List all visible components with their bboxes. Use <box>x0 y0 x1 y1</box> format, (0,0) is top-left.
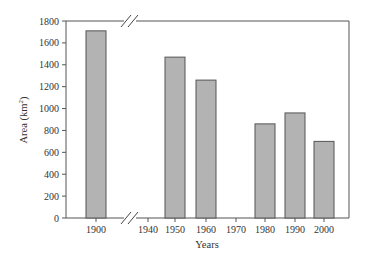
bar-2000 <box>314 141 334 218</box>
y-tick-label-0: 0 <box>54 213 59 224</box>
y-tick-label-1400: 1400 <box>39 59 59 70</box>
y-tick-label-200: 200 <box>44 191 59 202</box>
y-tick-label-600: 600 <box>44 147 59 158</box>
bar-1950 <box>165 57 185 218</box>
bar-1960 <box>196 80 216 218</box>
y-tick-label-400: 400 <box>44 169 59 180</box>
bar-chart: 020040060080010001200140016001800 190019… <box>0 0 366 261</box>
x-tick-label-1970: 1970 <box>226 224 246 235</box>
bar-1900 <box>86 31 106 218</box>
x-tick-label-1950: 1950 <box>165 224 185 235</box>
y-tick-label-800: 800 <box>44 125 59 136</box>
y-axis-title-main: Area (km <box>18 104 30 144</box>
x-tick-label-1980: 1980 <box>255 224 275 235</box>
x-tick-label-2000: 2000 <box>314 224 334 235</box>
bar-1980 <box>255 124 275 218</box>
bar-1990 <box>285 113 305 218</box>
bars <box>86 31 334 218</box>
y-ticks: 020040060080010001200140016001800 <box>39 16 66 224</box>
y-tick-label-1800: 1800 <box>39 16 59 27</box>
x-tick-label-1900: 1900 <box>86 224 106 235</box>
y-tick-label-1600: 1600 <box>39 37 59 48</box>
y-tick-label-1200: 1200 <box>39 81 59 92</box>
y-axis-title: Area (km2) <box>17 96 30 143</box>
y-axis-title-end: ) <box>18 96 30 100</box>
x-tick-label-1960: 1960 <box>196 224 216 235</box>
x-ticks: 19001940195019601970198019902000 <box>86 218 334 235</box>
y-tick-label-1000: 1000 <box>39 103 59 114</box>
x-tick-label-1990: 1990 <box>285 224 305 235</box>
x-axis-title: Years <box>195 239 218 250</box>
x-tick-label-1940: 1940 <box>138 224 158 235</box>
